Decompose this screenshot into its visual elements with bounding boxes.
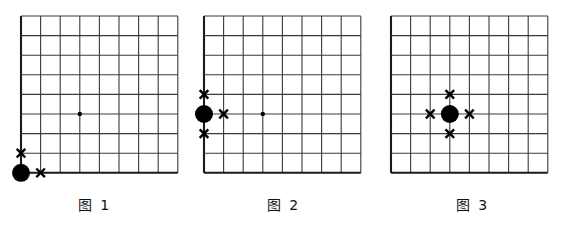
go-board-svg — [189, 0, 378, 196]
figure-caption: 图 3 — [378, 194, 567, 214]
black-stone — [441, 105, 459, 123]
black-stone — [195, 105, 213, 123]
grid-lines — [204, 16, 361, 173]
go-board — [378, 0, 567, 196]
go-board — [189, 0, 378, 196]
grid-lines — [21, 16, 178, 173]
grid-lines — [391, 16, 548, 173]
figure-caption: 图 2 — [189, 194, 378, 214]
star-point — [261, 112, 265, 116]
black-stone — [12, 164, 30, 182]
figures-row: 图 1图 2图 3 — [0, 0, 567, 228]
figure-block: 图 1 — [0, 0, 189, 228]
go-board — [0, 0, 189, 196]
go-board-svg — [378, 0, 567, 196]
figure-caption: 图 1 — [0, 194, 189, 214]
star-point — [78, 112, 82, 116]
figure-block: 图 2 — [189, 0, 378, 228]
go-board-svg — [0, 0, 189, 196]
figure-block: 图 3 — [378, 0, 567, 228]
